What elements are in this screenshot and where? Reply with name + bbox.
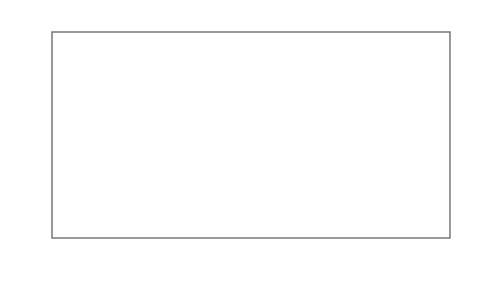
plot-frame: [52, 32, 450, 238]
chart-canvas: [0, 0, 499, 282]
